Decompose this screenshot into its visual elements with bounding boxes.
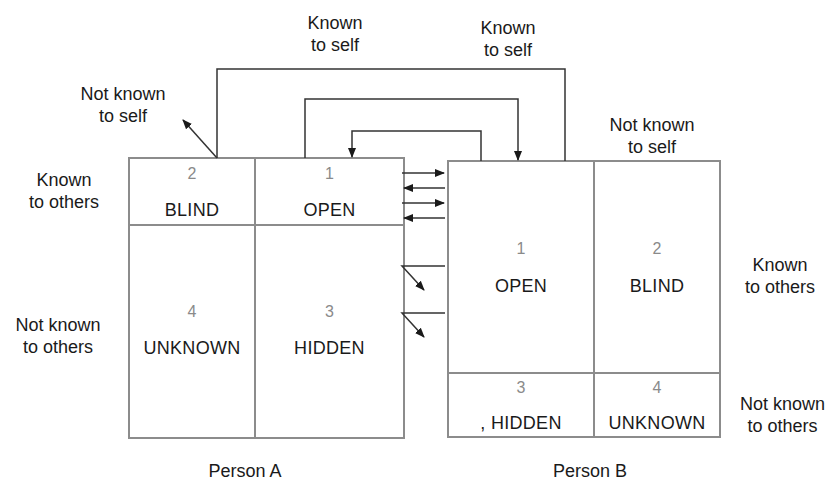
b-hidden-number: 3 <box>448 379 594 397</box>
person-a-caption: Person A <box>190 460 300 482</box>
label-a-known-to-others: Known to others <box>14 169 114 213</box>
label-b-not-known-to-self: Not known to self <box>597 114 707 158</box>
arrow-hidden-2 <box>402 313 445 337</box>
middle-connector <box>305 99 518 160</box>
a-hidden-number: 3 <box>255 303 404 321</box>
a-unknown-number: 4 <box>129 303 255 321</box>
a-open-number: 1 <box>255 165 404 183</box>
top-connectors <box>183 69 565 161</box>
not-known-to-self-arrow <box>183 120 217 158</box>
b-blind-label: BLIND <box>594 276 720 297</box>
outer-connector <box>217 69 565 161</box>
a-blind-number: 2 <box>129 165 255 183</box>
label-b-known-to-others: Known to others <box>727 254 833 298</box>
b-hidden-label: , HIDDEN <box>448 413 594 434</box>
exchange-arrows <box>402 173 445 337</box>
person-b-caption: Person B <box>535 460 645 482</box>
b-open-number: 1 <box>448 240 594 258</box>
b-unknown-label: UNKNOWN <box>594 413 720 434</box>
a-open-label: OPEN <box>255 200 404 221</box>
a-blind-label: BLIND <box>129 200 255 221</box>
label-a-not-known-to-others: Not known to others <box>0 314 116 358</box>
label-b-not-known-to-others: Not known to others <box>727 393 838 437</box>
arrow-hidden-1 <box>402 266 445 290</box>
label-a-known-to-self: Known to self <box>290 12 380 56</box>
b-unknown-number: 4 <box>594 379 720 397</box>
a-unknown-label: UNKNOWN <box>129 338 255 359</box>
label-a-not-known-to-self: Not known to self <box>68 83 178 127</box>
inner-connector <box>352 131 481 161</box>
b-open-label: OPEN <box>448 276 594 297</box>
label-b-known-to-self: Known to self <box>463 17 553 61</box>
b-blind-number: 2 <box>594 240 720 258</box>
a-hidden-label: HIDDEN <box>255 338 404 359</box>
